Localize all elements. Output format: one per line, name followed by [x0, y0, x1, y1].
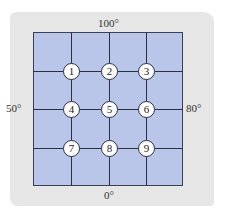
node-6: 6: [138, 101, 155, 118]
node-3: 3: [138, 63, 155, 80]
left-boundary-label: 50°: [6, 102, 21, 114]
top-boundary-label: 100°: [98, 17, 119, 29]
node-8: 8: [101, 140, 118, 157]
bottom-boundary-label: 0°: [104, 189, 114, 201]
node-9: 9: [138, 140, 155, 157]
node-1: 1: [63, 63, 80, 80]
node-5: 5: [101, 101, 118, 118]
node-7: 7: [63, 140, 80, 157]
node-2: 2: [101, 63, 118, 80]
right-boundary-label: 80°: [186, 102, 201, 114]
node-4: 4: [63, 101, 80, 118]
